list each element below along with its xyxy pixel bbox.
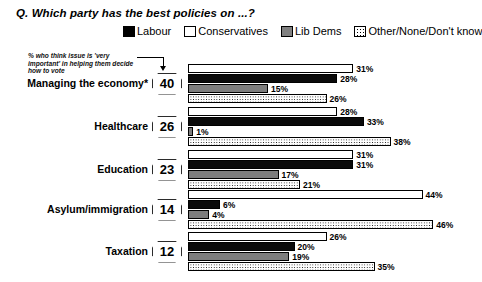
category-label: Education (0, 163, 148, 175)
bar-other[interactable] (188, 94, 327, 103)
bar-other[interactable] (188, 180, 300, 189)
bar-other[interactable] (188, 220, 433, 229)
bar-lib-dems[interactable] (188, 170, 279, 179)
bar-conservatives[interactable] (188, 232, 327, 241)
annotation-leader-line (137, 57, 164, 59)
legend-label-other: Other/None/Don't know (368, 25, 482, 37)
importance-badge: 23 (152, 159, 182, 181)
category-label: Asylum/immigration (0, 203, 148, 215)
importance-badge: 14 (152, 199, 182, 221)
category-label: Taxation (0, 245, 148, 257)
bar-value-label-other: 26% (330, 94, 347, 104)
bar-value-label-other: 35% (378, 262, 395, 272)
legend-item-other[interactable]: Other/None/Don't know (354, 25, 482, 37)
bar-value-label-labour: 31% (356, 160, 373, 170)
bar-conservatives[interactable] (188, 150, 353, 159)
legend-swatch-other (354, 26, 366, 37)
category-label: Managing the economy* (0, 77, 148, 89)
bar-labour[interactable] (188, 242, 295, 251)
legend-item-labour[interactable]: Labour (123, 25, 171, 37)
bar-value-label-lib-dems: 19% (292, 252, 309, 262)
legend-label-conservatives: Conservatives (198, 25, 268, 37)
legend-item-conservatives[interactable]: Conservatives (184, 25, 268, 37)
legend-label-labour: Labour (137, 25, 171, 37)
importance-badge: 26 (152, 116, 182, 138)
bar-labour[interactable] (188, 74, 337, 83)
bar-value-label-conservatives: 31% (356, 150, 373, 160)
bar-conservatives[interactable] (188, 107, 337, 116)
bar-value-label-labour: 6% (223, 200, 235, 210)
bar-value-label-labour: 28% (340, 74, 357, 84)
bar-value-label-lib-dems: 15% (271, 84, 288, 94)
bar-lib-dems[interactable] (188, 252, 289, 261)
bar-value-label-conservatives: 26% (330, 232, 347, 242)
bar-value-label-other: 38% (394, 137, 411, 147)
bar-lib-dems[interactable] (188, 127, 193, 136)
bar-conservatives[interactable] (188, 64, 353, 73)
legend-label-lib-dems: Lib Dems (295, 25, 341, 37)
bar-labour[interactable] (188, 117, 364, 126)
bar-other[interactable] (188, 262, 375, 271)
bar-value-label-conservatives: 31% (356, 64, 373, 74)
bar-value-label-lib-dems: 4% (212, 210, 224, 220)
importance-badge: 40 (152, 73, 182, 95)
bar-value-label-labour: 20% (298, 242, 315, 252)
bar-value-label-other: 21% (303, 180, 320, 190)
bar-labour[interactable] (188, 160, 353, 169)
bar-value-label-lib-dems: 1% (196, 127, 208, 137)
bar-other[interactable] (188, 137, 391, 146)
bar-value-label-other: 46% (436, 220, 453, 230)
category-label: Healthcare (0, 120, 148, 132)
bar-lib-dems[interactable] (188, 210, 209, 219)
legend-item-lib-dems[interactable]: Lib Dems (281, 25, 341, 37)
chart-legend: Labour Conservatives Lib Dems Other/None… (123, 25, 482, 37)
legend-swatch-labour (123, 26, 135, 37)
importance-badge: 12 (152, 241, 182, 263)
annotation-arrowhead-icon (160, 66, 166, 71)
legend-swatch-lib-dems (281, 26, 293, 37)
bar-value-label-labour: 33% (367, 117, 384, 127)
bar-value-label-lib-dems: 17% (282, 170, 299, 180)
legend-swatch-conservatives (184, 26, 196, 37)
bar-value-label-conservatives: 28% (340, 107, 357, 117)
chart-title: Q. Which party has the best policies on … (16, 7, 255, 19)
bar-lib-dems[interactable] (188, 84, 268, 93)
importance-annotation-text: % who think issue is 'very important' in… (28, 52, 136, 75)
bar-conservatives[interactable] (188, 190, 423, 199)
bar-value-label-conservatives: 44% (426, 190, 443, 200)
bar-labour[interactable] (188, 200, 220, 209)
